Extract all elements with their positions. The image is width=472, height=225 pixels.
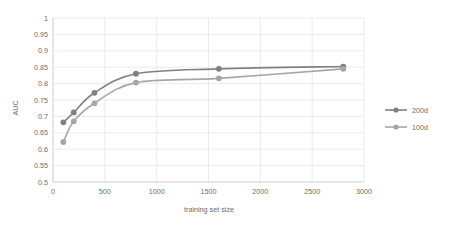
- data-point-100d: [60, 139, 66, 145]
- legend-label-100d: 100d: [412, 123, 428, 132]
- legend-marker-100d: [393, 124, 398, 129]
- data-point-200d: [216, 66, 222, 72]
- y-tick-label: 0.65: [34, 128, 48, 137]
- x-tick-label: 500: [99, 187, 111, 196]
- x-tick-label: 0: [51, 187, 55, 196]
- data-point-100d: [71, 118, 77, 124]
- data-point-100d: [133, 80, 139, 86]
- y-tick-label: 0.7: [38, 112, 48, 121]
- line-chart: 0.50.550.60.650.70.750.80.850.90.951 050…: [0, 0, 472, 225]
- y-tick-label: 0.85: [34, 63, 48, 72]
- x-axis-title: training set size: [184, 205, 234, 214]
- y-tick-label: 0.75: [34, 96, 48, 105]
- y-tick-label: 0.5: [38, 178, 48, 187]
- y-tick-label: 0.6: [38, 145, 48, 154]
- x-tick-label: 3000: [356, 187, 372, 196]
- series-line-200d: [63, 67, 343, 123]
- y-tick-label: 0.9: [38, 46, 48, 55]
- legend-marker-200d: [393, 107, 398, 112]
- y-tick-label: 0.8: [38, 79, 48, 88]
- data-point-200d: [71, 110, 77, 116]
- x-tick-label: 1000: [149, 187, 165, 196]
- x-axis-tick-labels: 050010001500200025003000: [51, 187, 372, 196]
- data-point-100d: [340, 66, 346, 72]
- y-tick-label: 0.95: [34, 30, 48, 39]
- y-axis-tick-labels: 0.50.550.60.650.70.750.80.850.90.951: [34, 14, 48, 187]
- data-point-100d: [216, 75, 222, 81]
- data-point-200d: [133, 71, 139, 77]
- x-tick-label: 1500: [201, 187, 217, 196]
- legend: 200d100d: [385, 106, 428, 132]
- data-point-200d: [92, 90, 98, 96]
- chart-svg: 0.50.550.60.650.70.750.80.850.90.951 050…: [0, 0, 472, 225]
- x-tick-label: 2000: [252, 187, 268, 196]
- legend-label-200d: 200d: [412, 106, 428, 115]
- y-tick-label: 0.55: [34, 161, 48, 170]
- y-tick-label: 1: [44, 14, 48, 23]
- data-point-200d: [60, 119, 66, 125]
- x-tick-label: 2500: [304, 187, 320, 196]
- series-line-100d: [63, 69, 343, 142]
- chart-screenshot: 0.50.550.60.650.70.750.80.850.90.951 050…: [0, 0, 472, 225]
- y-axis-title: AUC: [11, 100, 20, 115]
- data-point-100d: [92, 100, 98, 106]
